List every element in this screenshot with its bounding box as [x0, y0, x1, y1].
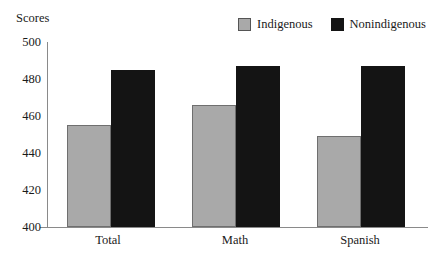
- y-tick-460: 460: [22, 110, 48, 123]
- bar-spanish-indigenous: [317, 136, 361, 227]
- bar-math-nonindigenous: [236, 66, 280, 227]
- bar-total-indigenous: [67, 125, 111, 227]
- y-tick-420: 420: [22, 184, 48, 197]
- legend-item-indigenous: Indigenous: [238, 18, 313, 31]
- bar-chart: Indigenous Nonindigenous Scores 500 480 …: [0, 0, 435, 262]
- legend-label-nonindigenous: Nonindigenous: [350, 18, 426, 31]
- x-tick-total: Total: [95, 234, 121, 247]
- black-swatch-icon: [331, 18, 344, 31]
- gray-swatch-icon: [238, 18, 251, 31]
- x-tick-spanish: Spanish: [340, 234, 380, 247]
- x-tick-math: Math: [222, 234, 248, 247]
- legend-label-indigenous: Indigenous: [257, 18, 313, 31]
- plot-area: 500 480 460 440 420 400: [48, 42, 423, 227]
- x-axis-line: [40, 227, 428, 228]
- bar-spanish-nonindigenous: [361, 66, 405, 227]
- y-tick-500: 500: [22, 36, 48, 49]
- legend-item-nonindigenous: Nonindigenous: [331, 18, 426, 31]
- y-axis-title: Scores: [16, 12, 49, 25]
- y-tick-480: 480: [22, 73, 48, 86]
- bar-group-math: [192, 42, 280, 227]
- bar-group-spanish: [317, 42, 405, 227]
- bar-total-nonindigenous: [111, 70, 155, 227]
- bar-groups: [48, 42, 423, 227]
- y-tick-400: 400: [22, 221, 48, 234]
- y-tick-440: 440: [22, 147, 48, 160]
- bar-math-indigenous: [192, 105, 236, 227]
- chart-legend: Indigenous Nonindigenous: [238, 18, 426, 31]
- bar-group-total: [67, 42, 155, 227]
